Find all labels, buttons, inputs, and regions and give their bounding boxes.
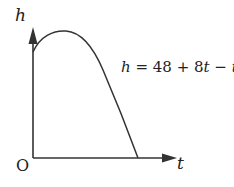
h-axis-arrow-icon <box>29 27 38 44</box>
origin-label: O <box>16 156 29 175</box>
y-axis-label: h <box>15 5 26 25</box>
equation-lhs: h <box>121 58 131 76</box>
equation-t2: t <box>232 58 234 76</box>
graph-diagram: h t O h = 48 + 8t − t2 <box>0 0 234 187</box>
equation-label: h = 48 + 8t − t2 <box>121 57 234 76</box>
equation-minus: − <box>210 58 232 76</box>
curve-h-of-t <box>33 31 138 158</box>
t-axis-arrow-icon <box>162 154 177 163</box>
equation-middle: = 48 + 8 <box>131 58 204 76</box>
x-axis-label: t <box>177 153 184 173</box>
